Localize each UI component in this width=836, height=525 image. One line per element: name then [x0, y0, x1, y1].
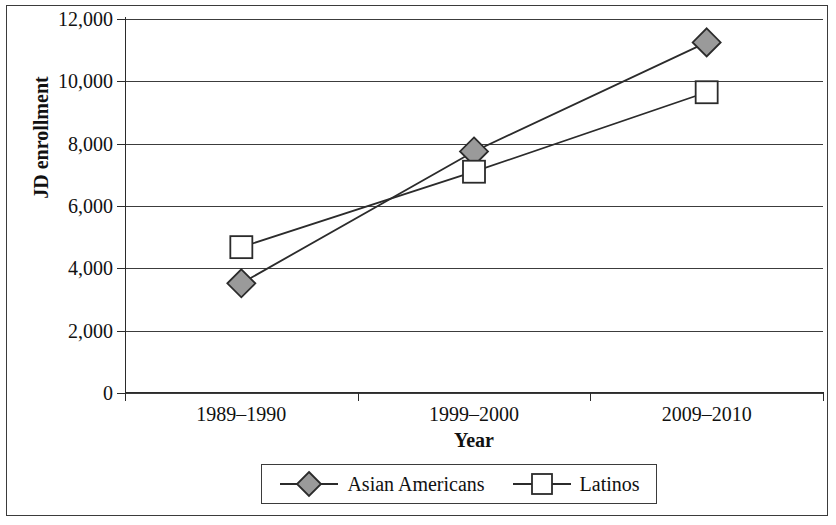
- data-point-marker: [227, 269, 255, 297]
- y-axis-title: JD enrollment: [30, 8, 53, 268]
- gridline: [125, 331, 823, 332]
- gridline: [125, 268, 823, 269]
- y-axis-tick-label: 2,000: [9, 321, 113, 341]
- y-axis-tick-label: 12,000: [9, 9, 113, 29]
- x-axis-tick-label: 1999–2000: [354, 402, 594, 426]
- data-point-marker: [463, 161, 485, 183]
- data-point-marker: [693, 28, 721, 56]
- y-axis-tick-label: 10,000: [9, 71, 113, 91]
- y-axis-tick-label: 8,000: [9, 134, 113, 154]
- x-axis-line: [125, 392, 823, 393]
- y-axis-tick-label: 0: [9, 383, 113, 403]
- y-axis-tick-label: 4,000: [9, 258, 113, 278]
- series-line-asian-americans: [241, 42, 706, 283]
- y-axis-tick-label: 6,000: [9, 196, 113, 216]
- x-axis-tick: [358, 392, 359, 401]
- x-axis-tick-label: 2009–2010: [587, 402, 827, 426]
- diamond-marker: [278, 469, 340, 499]
- x-axis-tick-label: 1989–1990: [121, 402, 361, 426]
- data-point-marker: [696, 81, 718, 103]
- gridline: [125, 19, 823, 20]
- y-axis-line: [125, 17, 126, 400]
- gridline: [125, 144, 823, 145]
- y-axis-tick: [117, 19, 126, 20]
- x-axis-title: Year: [125, 429, 823, 452]
- gridline: [125, 393, 823, 394]
- gridline: [125, 206, 823, 207]
- legend-label: Asian Americans: [347, 474, 484, 494]
- legend-item-asian-americans[interactable]: Asian Americans: [278, 469, 484, 499]
- y-axis-tick: [117, 206, 126, 207]
- data-point-marker: [230, 236, 252, 258]
- x-axis-tick: [823, 392, 824, 401]
- gridline: [125, 81, 823, 82]
- x-axis-tick: [590, 392, 591, 401]
- chart-figure: 02,0004,0006,0008,00010,00012,000 1989–1…: [6, 5, 828, 516]
- chart-legend: Asian AmericansLatinos: [261, 464, 657, 504]
- y-axis-tick: [117, 81, 126, 82]
- data-point-marker: [460, 137, 488, 165]
- y-axis-tick: [117, 331, 126, 332]
- x-axis-tick: [125, 392, 126, 401]
- series-line-latinos: [241, 92, 706, 247]
- y-axis-tick: [117, 144, 126, 145]
- y-axis-tick: [117, 268, 126, 269]
- legend-label: Latinos: [580, 474, 640, 494]
- legend-item-latinos[interactable]: Latinos: [511, 469, 640, 499]
- square-marker: [511, 469, 573, 499]
